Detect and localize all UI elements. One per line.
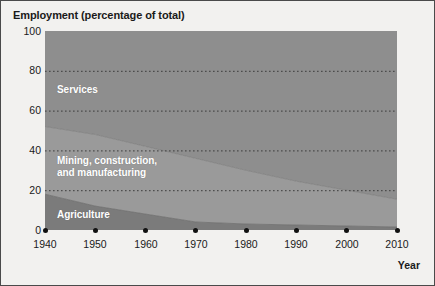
x-tick-1960: 1960 — [126, 239, 166, 250]
x-tick-1970: 1970 — [176, 239, 216, 250]
x-axis: 1940 1950 1960 1970 1980 1990 2000 2010 — [1, 1, 435, 286]
x-tick-2010: 2010 — [377, 239, 417, 250]
chart-figure: Employment (percentage of total) Se — [0, 0, 435, 286]
x-tick-1980: 1980 — [226, 239, 266, 250]
x-tick-1940: 1940 — [25, 239, 65, 250]
x-tick-1990: 1990 — [276, 239, 316, 250]
x-tick-2000: 2000 — [327, 239, 367, 250]
x-tick-1950: 1950 — [75, 239, 115, 250]
x-axis-title: Year — [398, 259, 420, 271]
